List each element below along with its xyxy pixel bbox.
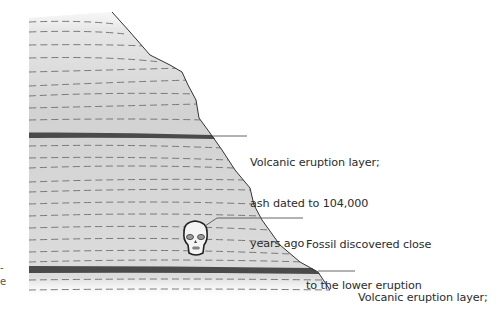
label-line: Fossil discovered close	[306, 238, 431, 252]
label-line: Volcanic eruption layer;	[358, 291, 488, 305]
label-line: Volcanic eruption layer;	[250, 156, 380, 170]
edge-text-fragment: e	[0, 276, 6, 287]
edge-text-fragment: -	[0, 262, 4, 273]
lower-eruption-label: Volcanic eruption layer; ash dated to 19…	[358, 264, 488, 321]
label-line: ash dated to 104,000	[250, 197, 380, 211]
